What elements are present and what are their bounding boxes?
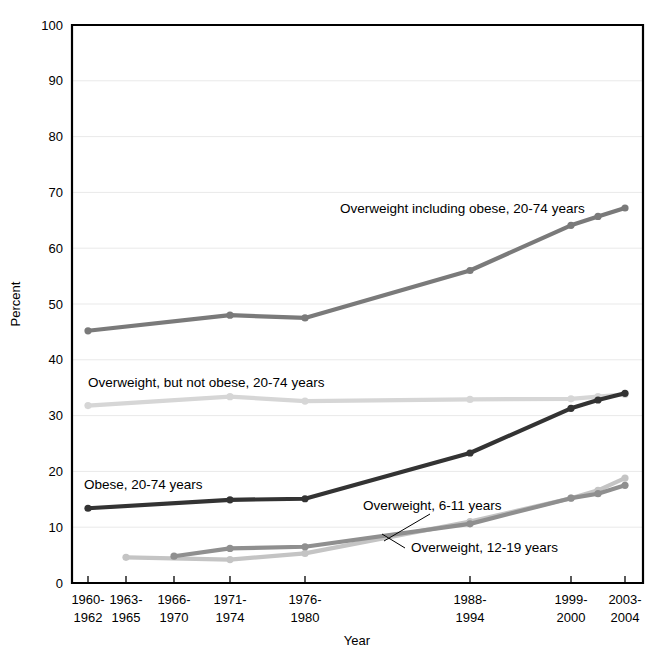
y-tick-label: 30 (49, 408, 63, 423)
data-point-marker (594, 213, 601, 220)
x-tick-label-line1: 1976- (288, 592, 321, 607)
x-tick-label-line2: 1962 (74, 610, 103, 625)
data-point-marker (84, 402, 91, 409)
data-point-marker (621, 390, 628, 397)
x-tick-label-line1: 1988- (453, 592, 486, 607)
y-tick-label: 80 (49, 129, 63, 144)
x-tick-label-line1: 2003- (608, 592, 641, 607)
data-point-marker (594, 490, 601, 497)
data-point-marker (226, 556, 233, 563)
y-tick-label: 60 (49, 241, 63, 256)
data-point-marker (621, 482, 628, 489)
series-line (88, 208, 625, 331)
series-label: Overweight including obese, 20-74 years (340, 201, 585, 216)
data-point-marker (301, 314, 308, 321)
x-axis-title: Year (344, 633, 371, 648)
data-point-marker (122, 554, 129, 561)
data-point-marker (567, 405, 574, 412)
data-point-marker (226, 393, 233, 400)
data-point-marker (621, 204, 628, 211)
y-tick-label: 20 (49, 464, 63, 479)
y-tick-label: 10 (49, 520, 63, 535)
x-tick-labels-group: 1960-19621963-19651966-19701971-19741976… (71, 592, 641, 625)
data-point-marker (84, 505, 91, 512)
data-point-marker (84, 327, 91, 334)
data-point-marker (226, 312, 233, 319)
data-point-marker (621, 474, 628, 481)
x-tick-label-line1: 1963- (109, 592, 142, 607)
data-point-marker (301, 543, 308, 550)
x-tick-label-line2: 2004 (611, 610, 640, 625)
y-tick-label: 90 (49, 73, 63, 88)
data-point-marker (466, 520, 473, 527)
data-point-marker (301, 550, 308, 557)
x-tick-label-line2: 1974 (216, 610, 245, 625)
data-point-marker (594, 396, 601, 403)
x-tick-label-line2: 2000 (557, 610, 586, 625)
data-point-marker (466, 449, 473, 456)
y-tick-label: 100 (41, 18, 63, 33)
x-tick-label-line1: 1966- (157, 592, 190, 607)
series-line (88, 394, 625, 405)
series-label: Overweight, but not obese, 20-74 years (88, 375, 325, 390)
x-tick-label-line2: 1994 (456, 610, 485, 625)
x-tick-label-line1: 1999- (554, 592, 587, 607)
data-point-marker (226, 545, 233, 552)
series-label: Overweight, 12-19 years (411, 540, 558, 555)
data-point-marker (301, 495, 308, 502)
x-tick-label-line2: 1970 (160, 610, 189, 625)
series-label: Overweight, 6-11 years (363, 498, 502, 513)
y-tick-label: 50 (49, 297, 63, 312)
x-tick-label-line2: 1965 (112, 610, 141, 625)
y-tick-label: 70 (49, 185, 63, 200)
data-point-marker (567, 495, 574, 502)
data-point-marker (567, 395, 574, 402)
chart-container: 0102030405060708090100 1960-19621963-196… (0, 0, 654, 657)
y-tick-labels-group: 0102030405060708090100 (41, 18, 63, 591)
x-tick-label-line2: 1980 (291, 610, 320, 625)
series-label: Obese, 20-74 years (84, 477, 203, 492)
data-point-marker (301, 397, 308, 404)
y-tick-label: 0 (56, 576, 63, 591)
data-point-marker (170, 553, 177, 560)
y-tick-label: 40 (49, 352, 63, 367)
y-axis-title: Percent (8, 281, 23, 326)
data-point-marker (466, 396, 473, 403)
x-tick-label-line1: 1960- (71, 592, 104, 607)
data-point-marker (567, 222, 574, 229)
x-tick-label-line1: 1971- (213, 592, 246, 607)
data-point-marker (466, 267, 473, 274)
data-point-marker (226, 496, 233, 503)
line-chart: 0102030405060708090100 1960-19621963-196… (0, 0, 654, 657)
